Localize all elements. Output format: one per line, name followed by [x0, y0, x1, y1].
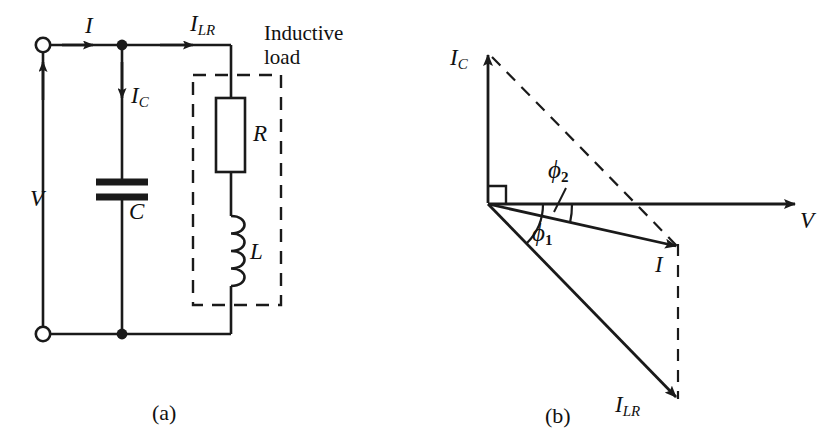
caption-panel-b: (b) — [545, 405, 571, 427]
figure-container: V I IC ILR Inductive load R L C (a) IC V… — [0, 0, 826, 437]
label-angle-phi1: ϕ1 — [532, 220, 552, 248]
resistor-body — [216, 98, 245, 172]
label-inductive-load: Inductive load — [264, 22, 343, 69]
label-current-ilr-sub: LR — [198, 22, 216, 38]
figure-drawing — [0, 0, 826, 437]
circuit-diagram — [36, 38, 281, 341]
terminal-top — [36, 38, 50, 52]
label-current-ilr-main: I — [190, 11, 198, 36]
construction-line-ic-ilr — [492, 57, 678, 247]
label-phasor-i: I — [655, 253, 663, 276]
label-current-i: I — [85, 14, 93, 37]
label-capacitor: C — [129, 200, 144, 223]
label-current-ic-main: I — [131, 83, 139, 108]
label-angle-phi1-sub: 1 — [545, 232, 553, 248]
label-phasor-ic: IC — [450, 46, 468, 72]
label-source-voltage: V — [30, 187, 44, 210]
phasor-i — [488, 204, 676, 246]
junction-top — [117, 40, 128, 51]
label-angle-phi2: ϕ2 — [548, 157, 568, 185]
label-phasor-ilr-sub: LR — [623, 403, 641, 419]
label-current-ilr: ILR — [190, 12, 215, 38]
angle-arc-phi2 — [570, 204, 572, 223]
label-phasor-v: V — [800, 209, 814, 232]
caption-panel-a: (a) — [152, 402, 176, 424]
label-angle-phi1-main: ϕ — [532, 219, 545, 246]
label-resistor: R — [253, 122, 267, 145]
terminal-bottom — [36, 327, 50, 341]
phasor-ilr — [488, 204, 676, 397]
label-phasor-ilr: ILR — [615, 393, 640, 419]
label-inductor: L — [250, 240, 263, 263]
label-phasor-ic-sub: C — [458, 56, 468, 72]
label-phasor-ilr-main: I — [615, 392, 623, 417]
label-phasor-ic-main: I — [450, 45, 458, 70]
label-current-ic: IC — [131, 84, 149, 110]
junction-bottom — [117, 329, 128, 340]
inductor-coil — [231, 216, 245, 286]
label-current-ic-sub: C — [139, 94, 149, 110]
right-angle-marker — [488, 186, 506, 203]
label-angle-phi2-sub: 2 — [561, 169, 569, 185]
angle-leader-phi2 — [554, 188, 566, 212]
label-angle-phi2-main: ϕ — [548, 156, 561, 183]
